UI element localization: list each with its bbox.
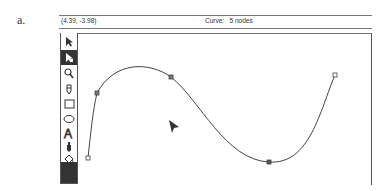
curve-node-3[interactable] xyxy=(169,75,173,79)
tool-palette: A xyxy=(60,33,78,184)
pencil-tool-icon[interactable] xyxy=(61,81,77,96)
curve-layer[interactable] xyxy=(0,0,390,191)
curve-node-4[interactable] xyxy=(267,160,271,164)
text-tool-icon[interactable]: A xyxy=(61,125,77,140)
rectangle-tool-icon[interactable] xyxy=(61,96,77,111)
zoom-tool-icon[interactable] xyxy=(61,66,77,81)
pointer-tool-icon[interactable] xyxy=(61,34,77,49)
curve-node-5[interactable] xyxy=(333,73,337,77)
ellipse-tool-icon[interactable] xyxy=(61,111,77,126)
svg-text:A: A xyxy=(64,127,72,139)
bezier-curve[interactable] xyxy=(88,67,335,163)
curve-node-1[interactable] xyxy=(86,156,90,160)
color-swatch[interactable] xyxy=(61,162,77,183)
node-edit-tool-icon[interactable] xyxy=(61,50,77,65)
curve-node-2[interactable] xyxy=(95,91,99,95)
mouse-cursor-icon xyxy=(169,120,179,133)
